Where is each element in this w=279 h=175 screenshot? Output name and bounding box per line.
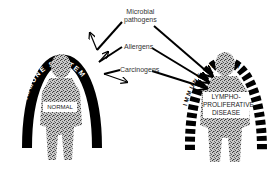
agent-label-line: Microbial [124,8,157,16]
agent-label-line: pathogens [124,16,157,24]
penetrating-arrows [152,26,212,88]
agent-label-line: Allergens [124,43,153,51]
normal-label: NORMAL [43,102,77,112]
immune-system-diagram: IMMUNE SYSTEM IMMUNE SYSTEM [0,0,279,175]
agent-label-allergens: Allergens [124,43,153,51]
agent-label-carcinogens: Carcinogens [120,66,159,74]
agent-label-line: Carcinogens [120,66,159,74]
disease-label: LYMPHO- PROLIFERATIVE DISEASE [203,92,249,118]
disease-label-line: LYMPHO- [203,93,249,101]
disease-label-line: DISEASE [203,109,249,117]
agent-label-microbial-pathogens: Microbial pathogens [124,8,157,24]
disease-label-line: PROLIFERATIVE [203,101,249,109]
